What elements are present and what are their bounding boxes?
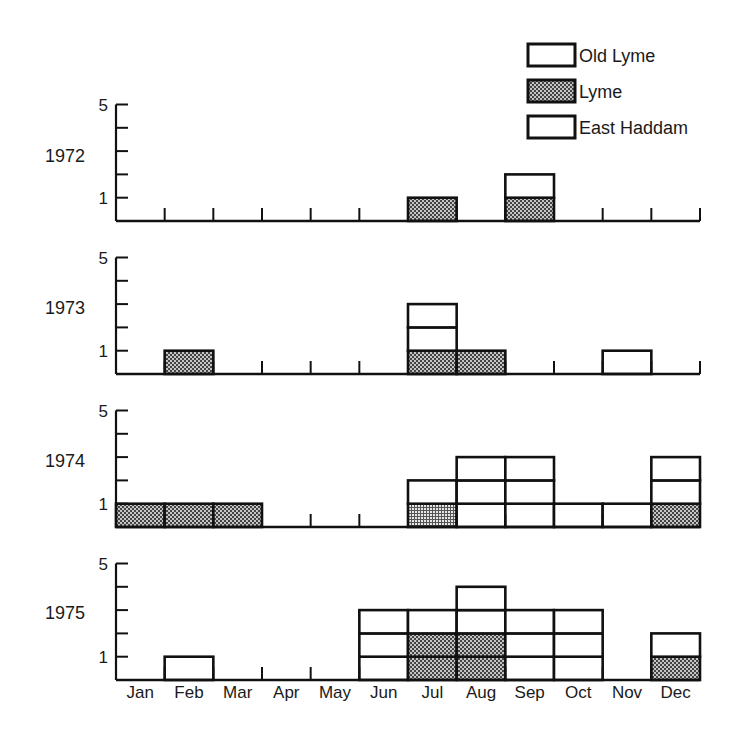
month-label-jul: Jul	[421, 683, 443, 702]
y-tick-label-5: 5	[99, 402, 108, 421]
bar-segment-lyme	[116, 504, 165, 527]
legend-swatch-east-haddam	[528, 116, 575, 138]
y-tick-label-1: 1	[99, 189, 108, 208]
panel-1973: 197315	[45, 249, 700, 375]
bar-segment-other	[408, 610, 457, 633]
legend-swatch-old-lyme	[528, 44, 575, 66]
bar-segment-other	[408, 327, 457, 350]
bar-segment-lyme	[651, 504, 700, 527]
bar-segment-other	[651, 457, 700, 480]
y-tick-label-5: 5	[99, 555, 108, 574]
bar-segment-other	[359, 633, 408, 656]
panel-1974: 197415	[45, 402, 700, 528]
legend-item-old-lyme: Old Lyme	[528, 44, 655, 66]
panel-1975: 197515	[45, 555, 700, 681]
bar-segment-other	[603, 504, 652, 527]
bar-segment-lyme	[408, 657, 457, 680]
y-axis: 15	[99, 249, 128, 375]
bar-segment-lyme	[213, 504, 262, 527]
y-axis: 15	[99, 96, 128, 222]
month-label-jun: Jun	[370, 683, 397, 702]
bar-segment-other	[505, 504, 554, 527]
bar-segment-other	[408, 304, 457, 327]
legend-label-old-lyme: Old Lyme	[579, 46, 655, 66]
bar-segment-lyme	[408, 351, 457, 374]
y-axis: 15	[99, 555, 128, 681]
bar-segment-other	[457, 610, 506, 633]
bar-segment-other	[505, 174, 554, 197]
year-label: 1973	[45, 298, 85, 318]
bar-segment-other	[554, 633, 603, 656]
lyme-disease-monthly-chart: Old Lyme Lyme East Haddam 19721519731519…	[0, 0, 739, 740]
bar-segment-other	[603, 351, 652, 374]
bar-segment-lyme	[408, 504, 457, 527]
legend-label-lyme: Lyme	[579, 82, 622, 102]
x-axis	[116, 208, 700, 221]
bar-segment-lyme	[408, 633, 457, 656]
month-label-jan: Jan	[127, 683, 154, 702]
bar-segment-other	[408, 480, 457, 503]
y-tick-label-5: 5	[99, 249, 108, 268]
month-label-nov: Nov	[612, 683, 643, 702]
y-tick-label-1: 1	[99, 648, 108, 667]
legend-item-east-haddam: East Haddam	[528, 116, 688, 138]
bar-segment-other	[505, 480, 554, 503]
y-tick-label-5: 5	[99, 96, 108, 115]
legend-swatch-lyme	[528, 80, 575, 102]
bar-segment-other	[554, 657, 603, 680]
month-label-sep: Sep	[515, 683, 545, 702]
bar-segment-lyme	[165, 504, 214, 527]
bar-segment-lyme	[457, 351, 506, 374]
month-label-dec: Dec	[661, 683, 692, 702]
bar-segment-other	[457, 504, 506, 527]
bar-segment-other	[165, 657, 214, 680]
y-tick-label-1: 1	[99, 495, 108, 514]
bar-segment-other	[359, 657, 408, 680]
bar-segment-other	[554, 504, 603, 527]
year-label: 1972	[45, 146, 85, 166]
year-panels: 197215197315197415197515	[45, 96, 700, 681]
bar-segment-other	[554, 610, 603, 633]
bar-segment-other	[651, 480, 700, 503]
bar-segment-lyme	[457, 633, 506, 656]
month-label-oct: Oct	[565, 683, 592, 702]
panel-1972: 197215	[45, 96, 700, 222]
bar-segment-other	[505, 657, 554, 680]
legend-item-lyme: Lyme	[528, 80, 622, 102]
month-label-may: May	[319, 683, 352, 702]
month-label-aug: Aug	[466, 683, 496, 702]
bar-segment-other	[457, 457, 506, 480]
bar-segment-lyme	[408, 198, 457, 221]
bar-segment-other	[359, 610, 408, 633]
bar-segment-other	[505, 633, 554, 656]
bars	[408, 174, 554, 221]
bar-segment-other	[505, 610, 554, 633]
year-label: 1975	[45, 603, 85, 623]
bar-segment-lyme	[457, 657, 506, 680]
bar-segment-other	[457, 480, 506, 503]
bar-segment-lyme	[165, 351, 214, 374]
year-label: 1974	[45, 451, 85, 471]
bar-segment-other	[505, 457, 554, 480]
x-axis-month-labels: Jan Feb Mar Apr May Jun Jul Aug Sep Oct …	[127, 683, 692, 702]
month-label-mar: Mar	[223, 683, 253, 702]
bar-segment-lyme	[651, 657, 700, 680]
month-label-apr: Apr	[273, 683, 300, 702]
bar-segment-other	[457, 587, 506, 610]
bar-segment-lyme	[505, 198, 554, 221]
bars	[165, 587, 700, 680]
legend: Old Lyme Lyme East Haddam	[528, 44, 688, 138]
legend-label-east-haddam: East Haddam	[579, 118, 688, 138]
y-tick-label-1: 1	[99, 342, 108, 361]
month-label-feb: Feb	[174, 683, 203, 702]
bar-segment-other	[651, 633, 700, 656]
